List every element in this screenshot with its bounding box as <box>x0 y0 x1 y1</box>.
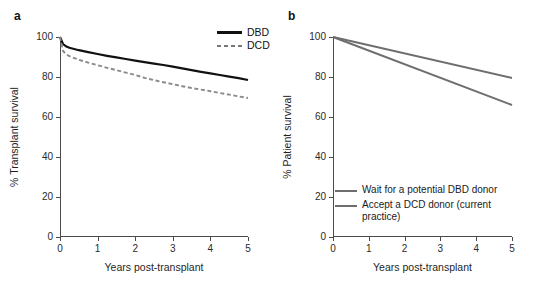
legend-swatch-dashed-icon <box>217 41 242 51</box>
legend-b: Wait for a potential DBD donorAccept a D… <box>335 184 540 225</box>
y-tick-label: 40 <box>315 152 326 162</box>
y-tick-label: 0 <box>47 232 53 242</box>
plot-area-a: 020406080100 012345 Years post-transplan… <box>60 37 248 237</box>
y-tick-label: 80 <box>315 72 326 82</box>
y-tick-label: 100 <box>309 32 326 42</box>
legend-item: Wait for a potential DBD donor <box>335 184 540 196</box>
legend-item: DCD <box>217 39 270 52</box>
legend-a: DBDDCD <box>217 26 270 52</box>
x-tick <box>98 237 99 241</box>
figure-container: a 020406080100 012345 Years post-transpl… <box>0 0 543 281</box>
y-tick-label: 40 <box>42 152 53 162</box>
x-tick-label: 5 <box>509 244 515 254</box>
x-tick <box>440 237 441 241</box>
legend-swatch-solid-icon <box>217 28 242 38</box>
x-tick-label: 3 <box>170 244 176 254</box>
x-tick <box>476 237 477 241</box>
x-tick-label: 4 <box>208 244 214 254</box>
x-tick-label: 1 <box>366 244 372 254</box>
chart-panel-b: b 020406080100 012345 Years post-transpl… <box>271 0 543 281</box>
x-tick <box>405 237 406 241</box>
series-lines-a <box>60 37 248 237</box>
x-tick <box>333 237 334 241</box>
legend-label: DBD <box>247 27 269 38</box>
x-tick-label: 2 <box>132 244 138 254</box>
legend-label: Wait for a potential DBD donor <box>362 184 497 196</box>
legend-item: DBD <box>217 26 270 39</box>
legend-swatch-solid-icon <box>335 199 357 211</box>
legend-label: Accept a DCD donor (currentpractice) <box>362 199 491 222</box>
y-tick-label: 60 <box>315 112 326 122</box>
y-tick-label: 60 <box>42 112 53 122</box>
legend-swatch-solid-icon <box>335 184 357 196</box>
x-tick <box>60 237 61 241</box>
y-tick-label: 0 <box>320 232 326 242</box>
y-tick-label: 80 <box>42 72 53 82</box>
x-tick-label: 5 <box>245 244 251 254</box>
x-tick <box>369 237 370 241</box>
x-tick <box>248 237 249 241</box>
x-tick-label: 3 <box>438 244 444 254</box>
y-axis-title-a: % Transplant survival <box>8 87 20 187</box>
x-tick-label: 1 <box>95 244 101 254</box>
x-tick-label: 0 <box>57 244 63 254</box>
y-tick-label: 100 <box>36 32 53 42</box>
legend-label: DCD <box>247 40 270 51</box>
x-axis-title-a: Years post-transplant <box>105 261 204 273</box>
y-axis-title-b: % Patient survival <box>281 95 293 178</box>
chart-panel-a: a 020406080100 012345 Years post-transpl… <box>0 0 271 281</box>
y-tick-label: 20 <box>42 192 53 202</box>
panel-letter-a: a <box>14 10 21 22</box>
x-tick-label: 4 <box>473 244 479 254</box>
legend-label-line2: practice) <box>362 211 400 222</box>
x-tick-label: 0 <box>330 244 336 254</box>
y-tick-label: 20 <box>315 192 326 202</box>
x-tick <box>210 237 211 241</box>
x-tick <box>173 237 174 241</box>
x-tick <box>135 237 136 241</box>
x-tick-label: 2 <box>402 244 408 254</box>
panel-letter-b: b <box>288 10 295 22</box>
legend-item: Accept a DCD donor (currentpractice) <box>335 199 540 222</box>
x-tick <box>512 237 513 241</box>
x-axis-title-b: Years post-transplant <box>373 261 472 273</box>
